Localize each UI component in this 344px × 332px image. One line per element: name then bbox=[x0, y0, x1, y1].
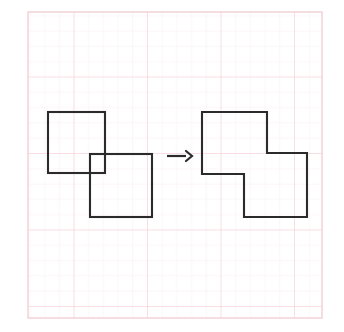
figure-svg bbox=[0, 0, 344, 332]
graph-paper bbox=[28, 12, 322, 318]
paper-grid-fill bbox=[28, 12, 322, 318]
diagram-canvas bbox=[0, 0, 344, 332]
